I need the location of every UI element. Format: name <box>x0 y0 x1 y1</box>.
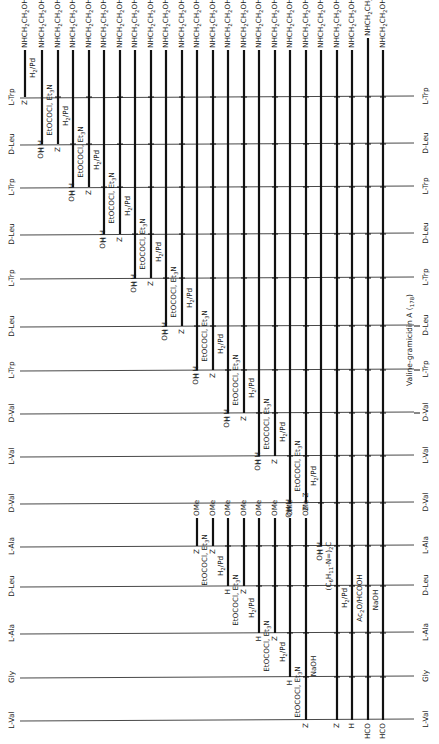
row-label-left: D-Val <box>7 494 16 513</box>
column-top-label: NHCH2CH2OH <box>316 0 327 48</box>
row-label-left: Gly <box>7 670 16 683</box>
intermediate-column: NHCH2CH2OHHOH H(C6H11-N=)2C <box>315 0 335 590</box>
reagent-label: H2/Pd <box>28 58 39 78</box>
reagent-label: H2/Pd <box>247 378 258 398</box>
svg-text:HCO: HCO <box>378 723 387 739</box>
residue-row-l-trp: L-TrpL-Trp <box>7 360 430 378</box>
reagent-label: EtOCOCl, Et3N <box>169 266 180 317</box>
row-label-left: D-Leu <box>7 223 16 245</box>
column-bottom-label: HCO <box>378 723 387 739</box>
svg-text:L-Trp: L-Trp <box>421 360 430 377</box>
reagent-label: EtOCOCl, Et3N <box>45 84 56 135</box>
svg-text:OH H: OH H <box>36 140 45 159</box>
svg-text:D-Leu: D-Leu <box>421 314 430 336</box>
svg-text:L-Trp: L-Trp <box>421 268 430 285</box>
column-top-label: NHCH2CH2OH <box>285 0 296 48</box>
svg-text:NHCH2CH2OH: NHCH2CH2OH <box>316 0 327 48</box>
row-line <box>20 719 414 721</box>
svg-text:OH H: OH H <box>129 274 138 293</box>
column-bottom-label: Z <box>53 147 62 152</box>
coupling-label: OH H <box>222 409 231 428</box>
svg-text:Gly: Gly <box>7 670 16 683</box>
svg-text:D-Leu: D-Leu <box>7 315 16 337</box>
intermediate-column: NHCH2CH2OHZH2/Pd <box>239 0 258 421</box>
column-top-label: NHCH2CH2OH <box>177 0 188 48</box>
column-bottom-label: HCO <box>363 723 372 739</box>
svg-text:H2/Pd: H2/Pd <box>28 58 39 78</box>
svg-text:OMe: OMe <box>270 499 279 516</box>
residue-row-l-trp: L-TrpL-Trp <box>7 87 430 105</box>
column-top-label: NHCH2CH2OH <box>84 0 95 48</box>
intermediate-column: NHCH2CH2OHHOH HEtOCOCl, Et3N <box>222 0 242 428</box>
column-bottom-label: Z <box>20 100 29 105</box>
svg-text:NaOH: NaOH <box>371 590 380 611</box>
svg-text:L-Trp: L-Trp <box>421 177 430 194</box>
row-label-right: D-Leu <box>421 222 430 244</box>
svg-text:NHCH2CH2OH: NHCH2CH2OH <box>130 0 141 48</box>
reagent-label: EtOCOCl, Et3N <box>107 172 118 223</box>
row-label-right: L-Trp <box>421 360 430 377</box>
row-label-left: L-Trp <box>7 269 16 286</box>
svg-text:L-Ala: L-Ala <box>421 536 430 554</box>
svg-text:EtOCOCl, Et3N: EtOCOCl, Et3N <box>262 398 273 449</box>
svg-text:L-Val: L-Val <box>7 447 16 464</box>
column-top-label: NHCH2CH2OH <box>115 0 126 48</box>
svg-text:H2/Pd: H2/Pd <box>340 588 351 608</box>
coupling-label: OH H <box>160 322 169 341</box>
row-label-right: D-Val <box>421 403 430 422</box>
column-top-label: NHCH2CH2OH <box>53 0 64 48</box>
svg-text:H2/Pd: H2/Pd <box>309 466 320 486</box>
reagent-label: H2/Pd <box>92 150 103 170</box>
svg-text:OMe: OMe <box>285 499 294 516</box>
svg-text:Z: Z <box>332 723 341 728</box>
svg-text:Ac2O/HCOOH: Ac2O/HCOOH <box>355 574 366 621</box>
svg-text:OMe: OMe <box>192 499 201 516</box>
reagent-label: NaOH <box>371 590 380 611</box>
svg-text:Z: Z <box>177 329 186 334</box>
reagent-label: EtOCOCl, Et3N <box>76 126 87 177</box>
synthesis-scheme-diagram: L-TrpL-TrpD-LeuD-LeuL-TrpL-TrpD-LeuD-Leu… <box>0 0 439 744</box>
row-label-right: L-Val <box>421 710 430 727</box>
column-top-label: NHCH2CH2OH <box>347 0 358 48</box>
svg-text:NHCH2CH2OH: NHCH2CH2OH <box>239 0 250 48</box>
column-top-label: OMe <box>208 499 217 516</box>
ester-column: OMeZH2/Pd <box>270 499 289 662</box>
column-bottom-label: Z <box>239 589 248 594</box>
ester-column: OMe ZZNaOH <box>301 492 318 728</box>
svg-text:OMe: OMe <box>239 499 248 516</box>
svg-text:D-Val: D-Val <box>421 493 430 512</box>
column-bottom-label: Z <box>208 373 217 378</box>
column-top-label: NHCH2CH2OH <box>378 0 389 48</box>
column-bottom-label: Z <box>208 549 217 554</box>
svg-text:Valine-gramicidin A (178): Valine-gramicidin A (178) <box>405 294 415 386</box>
row-label-right: D-Leu <box>421 132 430 154</box>
svg-text:L-Ala: L-Ala <box>421 623 430 641</box>
column-top-label: OMe <box>285 499 294 516</box>
svg-text:HCO: HCO <box>363 723 372 739</box>
svg-text:EtOCOCl, Et3N: EtOCOCl, Et3N <box>231 574 242 625</box>
svg-text:NHCH2CH2OH: NHCH2CH2OH <box>20 0 31 48</box>
column-bottom-label: Z <box>146 281 155 286</box>
svg-text:H2/Pd: H2/Pd <box>154 242 165 262</box>
row-label-right: L-Ala <box>421 623 430 641</box>
column-top-label: NHCH2CH2OH <box>270 0 281 48</box>
reagent-label: EtOCOCl, Et3N <box>231 354 242 405</box>
residue-row-d-leu: D-LeuD-Leu <box>7 222 430 245</box>
svg-text:Z: Z <box>84 190 93 195</box>
svg-text:H: H <box>347 723 356 728</box>
row-label-right: D-Leu <box>421 574 430 596</box>
svg-text:NHCH2CH2OH: NHCH2CH2OH <box>254 0 265 48</box>
row-label-left: D-Leu <box>7 575 16 597</box>
intermediate-column: NHCH2CH2OHZH2/Pd <box>332 0 351 728</box>
svg-text:L-Val: L-Val <box>7 711 16 728</box>
column-top-label: NHCH2CH2OH <box>146 0 157 48</box>
column-top-label: NHCH2CH2OH <box>301 0 312 48</box>
reagent-label: H2/Pd <box>154 242 165 262</box>
svg-text:NHCH2CH2OH: NHCH2CH2OH <box>208 0 219 48</box>
svg-text:D-Leu: D-Leu <box>7 133 16 155</box>
intermediate-column: NHCH2CH2OHZH2/Pd <box>177 0 196 334</box>
svg-text:D-Leu: D-Leu <box>7 575 16 597</box>
ester-column: OMeHEtOCOCl, Et3N <box>285 499 304 718</box>
column-bottom-label: Z <box>115 237 124 242</box>
svg-text:NHCH2CH2OH: NHCH2CH2OH <box>347 0 358 48</box>
